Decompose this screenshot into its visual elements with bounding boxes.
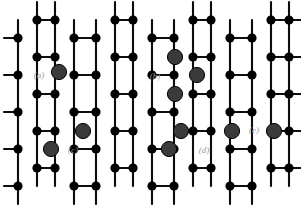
- carbon-atom: [188, 15, 197, 24]
- carbon-atom: [91, 107, 100, 116]
- carbon-atom: [188, 52, 197, 61]
- carbon-atom: [147, 70, 156, 79]
- dopant-atom: [51, 64, 66, 79]
- carbon-atom: [50, 89, 59, 98]
- carbon-atom: [110, 52, 119, 61]
- carbon-atom: [225, 107, 234, 116]
- carbon-atom: [266, 52, 275, 61]
- carbon-atom: [206, 89, 215, 98]
- carbon-atom: [284, 15, 293, 24]
- carbon-atom: [284, 126, 293, 135]
- carbon-atom: [169, 107, 178, 116]
- dopant-atom: [167, 49, 182, 64]
- lattice-diagram: [0, 0, 301, 206]
- carbon-atom: [188, 126, 197, 135]
- carbon-atom: [110, 163, 119, 172]
- dopant-atom: [173, 123, 188, 138]
- figure-panel: (a)(b)(c)(d)(e): [0, 0, 301, 206]
- carbon-atom: [13, 144, 22, 153]
- dopant-atom: [161, 141, 176, 156]
- carbon-atom: [110, 126, 119, 135]
- carbon-atom: [225, 33, 234, 42]
- carbon-atom: [169, 70, 178, 79]
- carbon-atom: [110, 89, 119, 98]
- carbon-atom: [50, 52, 59, 61]
- carbon-atom: [13, 33, 22, 42]
- carbon-atom: [50, 15, 59, 24]
- carbon-atom: [69, 181, 78, 190]
- carbon-atom: [169, 33, 178, 42]
- carbon-atom: [266, 89, 275, 98]
- carbon-atom: [206, 163, 215, 172]
- carbon-atom: [247, 33, 256, 42]
- carbon-atom: [32, 126, 41, 135]
- carbon-atom: [69, 144, 78, 153]
- carbon-atom: [284, 163, 293, 172]
- carbon-atom: [247, 181, 256, 190]
- carbon-atom: [50, 126, 59, 135]
- carbon-atom: [91, 70, 100, 79]
- carbon-atom: [50, 163, 59, 172]
- carbon-atom: [69, 70, 78, 79]
- carbon-atom: [32, 163, 41, 172]
- carbon-atom: [169, 181, 178, 190]
- carbon-atom: [225, 144, 234, 153]
- dopant-atom: [43, 141, 58, 156]
- carbon-atom: [13, 181, 22, 190]
- carbon-atom: [206, 52, 215, 61]
- carbon-atom: [128, 126, 137, 135]
- carbon-atom: [13, 107, 22, 116]
- carbon-atom: [91, 181, 100, 190]
- carbon-atom: [188, 89, 197, 98]
- carbon-atom: [206, 126, 215, 135]
- dopant-atom: [189, 67, 204, 82]
- carbon-atom: [110, 15, 119, 24]
- carbon-atom: [225, 70, 234, 79]
- dopant-layer: [43, 49, 281, 156]
- carbon-atom: [13, 70, 22, 79]
- dopant-atom: [75, 123, 90, 138]
- bond-layer: [4, 2, 301, 204]
- carbon-atom: [91, 144, 100, 153]
- dopant-atom: [167, 86, 182, 101]
- carbon-atom: [247, 107, 256, 116]
- carbon-atom: [128, 163, 137, 172]
- carbon-atom: [147, 181, 156, 190]
- carbon-atom: [284, 89, 293, 98]
- carbon-atom: [284, 52, 293, 61]
- carbon-atom: [147, 33, 156, 42]
- dopant-atom: [224, 123, 239, 138]
- carbon-atom: [247, 70, 256, 79]
- carbon-atom: [266, 15, 275, 24]
- carbon-atom: [69, 33, 78, 42]
- dopant-atom: [266, 123, 281, 138]
- carbon-atom: [188, 163, 197, 172]
- carbon-atom: [32, 15, 41, 24]
- carbon-atom: [206, 15, 215, 24]
- carbon-atom: [91, 33, 100, 42]
- carbon-atom: [147, 144, 156, 153]
- carbon-atom: [225, 181, 234, 190]
- carbon-atom: [266, 163, 275, 172]
- carbon-atom: [247, 144, 256, 153]
- carbon-atom: [128, 52, 137, 61]
- carbon-atom: [32, 52, 41, 61]
- carbon-atom: [147, 107, 156, 116]
- carbon-atom: [32, 89, 41, 98]
- carbon-atom: [128, 15, 137, 24]
- carbon-atom: [69, 107, 78, 116]
- carbon-atom: [128, 89, 137, 98]
